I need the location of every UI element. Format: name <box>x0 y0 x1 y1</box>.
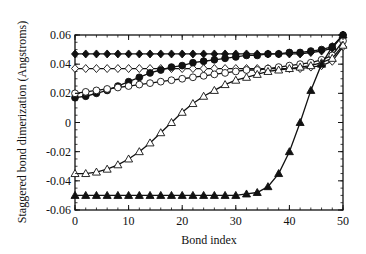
y-axis-label: Staggered bond dimerization (Angstroms) <box>15 21 29 223</box>
series-open-triangles <box>71 41 347 176</box>
x-tick-label: 30 <box>230 214 242 228</box>
y-tick-label: 0 <box>65 116 71 130</box>
series-open-circles <box>72 37 347 96</box>
y-tick-label: 0.06 <box>50 28 71 42</box>
x-tick-label: 50 <box>337 214 349 228</box>
y-tick-label: 0.02 <box>50 86 71 100</box>
chart: 01020304050-0.06-0.04-0.0200.020.040.06 … <box>0 0 366 254</box>
y-tick-label: -0.04 <box>46 174 71 188</box>
series-layer <box>71 31 347 198</box>
x-axis-label: Bond index <box>181 233 237 247</box>
series-filled-triangles <box>71 31 347 198</box>
x-tick-label: 0 <box>72 214 78 228</box>
y-tick-label: 0.04 <box>50 57 71 71</box>
x-tick-label: 20 <box>176 214 188 228</box>
y-tick-label: -0.06 <box>46 203 71 217</box>
series-open-diamonds <box>72 43 347 73</box>
x-tick-label: 40 <box>283 214 295 228</box>
x-tick-label: 10 <box>123 214 135 228</box>
ticks-layer: 01020304050-0.06-0.04-0.0200.020.040.06 <box>46 28 349 228</box>
y-tick-label: -0.02 <box>46 145 71 159</box>
